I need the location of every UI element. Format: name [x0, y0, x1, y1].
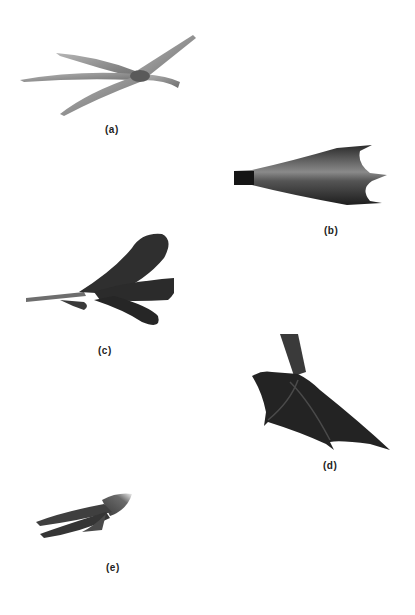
foot-illustration-e — [32, 490, 132, 542]
perching-foot-icon — [18, 32, 200, 117]
panel-label-b: (b) — [324, 225, 338, 236]
webbed-foot-icon — [232, 143, 390, 208]
panel-label-d: (d) — [323, 460, 337, 471]
totipalmate-foot-icon — [250, 332, 392, 452]
panel-label-c: (c) — [98, 345, 112, 356]
panel-label-a: (a) — [105, 124, 119, 135]
foot-illustration-b — [232, 143, 390, 208]
foot-illustration-d — [250, 332, 392, 452]
foot-illustration-c — [24, 230, 174, 332]
lobed-foot-icon — [24, 230, 174, 332]
clawed-foot-icon — [32, 490, 132, 542]
foot-illustration-a — [18, 32, 200, 117]
panel-label-e: (e) — [106, 562, 120, 573]
